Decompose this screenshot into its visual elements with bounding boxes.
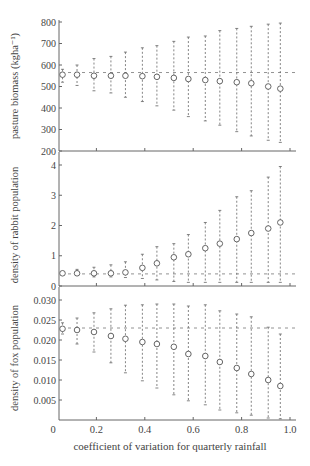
mean-marker — [234, 236, 240, 242]
mean-marker — [265, 377, 271, 383]
data-point — [123, 262, 129, 278]
data-point — [74, 65, 80, 85]
mean-marker — [123, 73, 129, 79]
data-point — [278, 334, 284, 419]
mean-marker — [265, 84, 271, 90]
mean-marker — [234, 79, 240, 85]
data-point — [91, 267, 97, 277]
pasture-biomass-panel: 200300400500600700800pasture biomass (kg… — [9, 17, 296, 157]
x-tick-label: 0.2 — [90, 424, 103, 435]
data-point — [154, 46, 160, 106]
data-point — [60, 270, 66, 276]
mean-marker — [248, 371, 254, 377]
x-tick-label: 0.6 — [187, 424, 200, 435]
data-point — [234, 28, 240, 131]
mean-marker — [140, 265, 146, 271]
figure: 200300400500600700800pasture biomass (kg… — [0, 0, 310, 466]
mean-marker — [278, 86, 284, 92]
y-tick-label: 700 — [41, 38, 56, 49]
y-tick-label: 200 — [41, 146, 56, 157]
data-point — [171, 304, 177, 395]
data-point — [186, 306, 192, 401]
mean-marker — [60, 270, 66, 276]
y-axis-label: density of rabbit population — [9, 166, 20, 283]
mean-marker — [91, 329, 97, 335]
data-point — [248, 26, 254, 136]
data-point — [217, 311, 223, 410]
y-tick-label: 0.010 — [34, 375, 57, 386]
mean-marker — [60, 326, 66, 332]
mean-marker — [234, 365, 240, 371]
data-point — [140, 254, 146, 278]
mean-marker — [91, 73, 97, 79]
data-point — [154, 247, 160, 280]
data-point — [60, 323, 66, 334]
mean-marker — [154, 341, 160, 347]
data-point — [91, 59, 97, 91]
y-axis-label: density of fox population — [9, 304, 20, 411]
data-point — [217, 31, 223, 126]
data-point — [278, 23, 284, 142]
fox-density-panel: 0.0050.0100.0150.0200.0250.030density of… — [9, 287, 296, 420]
y-axis-label: pasture biomass (kgha⁻¹) — [9, 32, 21, 139]
y-tick-label: 0.005 — [34, 395, 57, 406]
data-point — [123, 305, 129, 373]
data-point — [91, 313, 97, 352]
mean-marker — [171, 344, 177, 350]
data-point — [234, 197, 240, 283]
data-point — [140, 305, 146, 381]
y-tick-label: 0.030 — [34, 295, 57, 306]
data-point — [74, 318, 80, 344]
mean-marker — [217, 359, 223, 365]
mean-marker — [154, 74, 160, 80]
data-point — [186, 235, 192, 283]
mean-marker — [278, 220, 284, 226]
mean-marker — [203, 353, 209, 359]
mean-marker — [217, 241, 223, 247]
mean-marker — [278, 383, 284, 389]
data-point — [203, 36, 209, 121]
data-point — [123, 52, 129, 97]
data-point — [108, 56, 114, 93]
x-tick-label: 0 — [50, 424, 55, 435]
y-tick-label: 500 — [41, 81, 56, 92]
mean-marker — [203, 245, 209, 251]
data-point — [248, 191, 254, 283]
mean-marker — [154, 261, 160, 267]
rabbit-density-panel: 01234density of rabbit population — [9, 152, 296, 292]
data-point — [278, 167, 284, 283]
y-tick-label: 4 — [51, 160, 56, 171]
x-tick-label: 0.4 — [138, 424, 152, 435]
data-point — [234, 314, 240, 413]
data-point — [171, 41, 177, 110]
data-point — [108, 265, 114, 277]
mean-marker — [123, 270, 129, 276]
mean-marker — [91, 270, 97, 276]
data-point — [217, 210, 223, 282]
data-point — [154, 304, 160, 388]
data-point — [186, 37, 192, 117]
mean-marker — [171, 75, 177, 81]
mean-marker — [140, 339, 146, 345]
data-point — [203, 305, 209, 405]
data-point — [265, 177, 271, 282]
y-tick-label: 0.025 — [34, 315, 57, 326]
mean-marker — [74, 327, 80, 333]
mean-marker — [171, 254, 177, 260]
data-point — [171, 244, 177, 282]
data-point — [74, 269, 80, 276]
data-point — [248, 317, 254, 415]
data-point — [265, 24, 271, 140]
y-tick-label: 0.015 — [34, 355, 57, 366]
x-tick-label: 0.8 — [235, 424, 248, 435]
mean-marker — [74, 72, 80, 78]
y-tick-label: 0.020 — [34, 335, 57, 346]
data-point — [60, 69, 66, 82]
mean-marker — [265, 226, 271, 232]
mean-marker — [123, 336, 129, 342]
mean-marker — [186, 251, 192, 257]
mean-marker — [186, 351, 192, 357]
mean-marker — [108, 73, 114, 79]
y-tick-label: 0 — [51, 281, 56, 292]
y-tick-label: 2 — [51, 220, 56, 231]
